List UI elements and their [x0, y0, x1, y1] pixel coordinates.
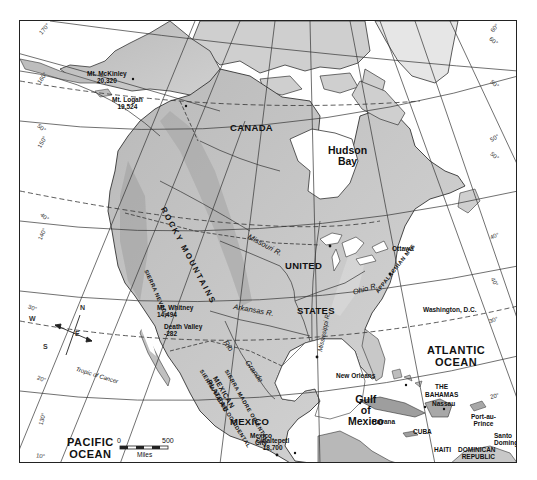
country-us-line1: UNITED [285, 261, 322, 271]
peak-name: Mt. McKinley [87, 70, 127, 77]
peak-name: Mt. Logan [112, 96, 143, 103]
country-canada: CANADA [230, 123, 273, 133]
country-haiti: HAITI [434, 447, 451, 454]
city-new-orleans: New Orleans [336, 373, 375, 380]
city-name-line: City [250, 440, 272, 447]
water-name-line: PACIFIC [67, 437, 114, 449]
water-name-line: OCEAN [67, 449, 114, 461]
peak-mt-logan: Mt. Logan 19,524 [112, 96, 143, 110]
country-name-line: THE [425, 383, 458, 391]
city-name-line: Prince [471, 421, 496, 428]
compass-e: E [75, 330, 80, 337]
peak-elevation: 20,320 [87, 77, 127, 84]
scale-bar-graphic [120, 446, 168, 449]
greenland-landmass [375, 21, 458, 83]
compass-s: S [43, 343, 48, 350]
water-name-line: ATLANTIC [427, 345, 485, 357]
city-port-au-prince: Port-au- Prince [471, 414, 496, 427]
scale-bar-unit: Miles [137, 452, 152, 459]
country-bahamas: THE BAHAMAS [425, 383, 458, 400]
city-santo-domingo: Santo Domingo [494, 433, 517, 446]
place-name: Death Valley [164, 323, 202, 330]
city-nassau: Nassau [432, 401, 455, 408]
place-death-valley: Death Valley -282 [164, 323, 202, 337]
city-washington-dc: Washington, D.C. [423, 307, 477, 314]
label-pacific-ocean: PACIFIC OCEAN [67, 437, 114, 460]
country-cuba: CUBA [413, 429, 432, 436]
label-atlantic-ocean: ATLANTIC OCEAN [427, 345, 485, 368]
peak-elevation: 19,524 [112, 103, 143, 110]
country-name-line: REPUBLIC [458, 454, 496, 461]
peak-mt-mckinley: Mt. McKinley 20,320 [87, 70, 127, 84]
label-hudson-bay: Hudson Bay [328, 145, 367, 167]
map-frame: Mt. McKinley 20,320 Mt. Logan 19,524 Mt.… [19, 20, 517, 463]
city-name-line: Domingo [494, 440, 517, 447]
scale-bar-max: 500 [162, 437, 174, 444]
water-name-line: OCEAN [427, 357, 485, 369]
country-dominican-republic: DOMINICAN REPUBLIC [458, 447, 496, 460]
water-name-line: Bay [328, 156, 367, 167]
city-havana: Havana [372, 419, 395, 426]
compass-w: W [29, 315, 36, 322]
country-name-line: BAHAMAS [425, 391, 458, 399]
scale-bar-min: 0 [117, 437, 121, 444]
place-elevation: -282 [164, 330, 202, 337]
compass-n: N [80, 304, 85, 311]
